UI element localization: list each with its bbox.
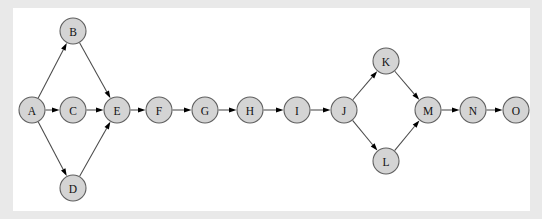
arrowhead-icon — [61, 168, 67, 176]
node-circle[interactable] — [503, 97, 529, 123]
edge-k-to-m — [395, 71, 419, 100]
arrowhead-icon — [138, 108, 146, 113]
node-circle[interactable] — [460, 97, 486, 123]
graph-node-k[interactable]: K — [373, 48, 399, 74]
edge-j-to-l — [353, 120, 378, 150]
edge-e-to-f — [131, 108, 146, 113]
edge-h-to-i — [264, 108, 284, 113]
edge-i-to-j — [311, 108, 331, 113]
arrowhead-icon — [495, 108, 503, 113]
node-circle[interactable] — [415, 97, 441, 123]
arrowhead-icon — [96, 108, 104, 113]
edge-b-to-e — [80, 43, 111, 98]
arrowhead-icon — [61, 43, 67, 51]
arrowhead-icon — [105, 90, 111, 98]
arrowhead-icon — [184, 108, 192, 113]
edge-f-to-g — [173, 108, 192, 113]
node-circle[interactable] — [60, 18, 86, 44]
edge-m-to-n — [442, 108, 460, 113]
edge-d-to-e — [80, 122, 111, 176]
edge-g-to-h — [219, 108, 237, 113]
graph-node-m[interactable]: M — [415, 97, 441, 123]
node-circle[interactable] — [60, 175, 86, 201]
graph-node-a[interactable]: A — [19, 97, 45, 123]
graph-panel: ABCDEFGHIJKLMNO — [13, 8, 530, 211]
arrowhead-icon — [276, 108, 284, 113]
graph-node-h[interactable]: H — [237, 97, 263, 123]
edge-a-to-b — [38, 43, 67, 98]
edge-l-to-m — [395, 120, 420, 150]
node-circle[interactable] — [19, 97, 45, 123]
graph-node-g[interactable]: G — [192, 97, 218, 123]
graph-node-l[interactable]: L — [373, 148, 399, 174]
edge-a-to-d — [38, 122, 66, 176]
node-circle[interactable] — [146, 97, 172, 123]
arrowhead-icon — [105, 122, 111, 130]
graph-node-f[interactable]: F — [146, 97, 172, 123]
node-circle[interactable] — [373, 148, 399, 174]
graph-canvas: ABCDEFGHIJKLMNO — [13, 8, 530, 211]
node-circle[interactable] — [284, 97, 310, 123]
arrowhead-icon — [452, 108, 460, 113]
node-circle[interactable] — [60, 97, 86, 123]
node-circle[interactable] — [331, 97, 357, 123]
node-circle[interactable] — [192, 97, 218, 123]
arrowhead-icon — [229, 108, 237, 113]
arrowhead-icon — [52, 108, 60, 113]
graph-node-n[interactable]: N — [460, 97, 486, 123]
node-circle[interactable] — [373, 48, 399, 74]
graph-node-e[interactable]: E — [104, 97, 130, 123]
graph-node-i[interactable]: I — [284, 97, 310, 123]
arrowhead-icon — [323, 108, 331, 113]
node-circle[interactable] — [104, 97, 130, 123]
edge-c-to-e — [87, 108, 104, 113]
node-circle[interactable] — [237, 97, 263, 123]
edge-j-to-k — [353, 71, 377, 100]
graph-node-d[interactable]: D — [60, 175, 86, 201]
edge-n-to-o — [487, 108, 503, 113]
edge-a-to-c — [46, 108, 60, 113]
graph-node-b[interactable]: B — [60, 18, 86, 44]
graph-node-o[interactable]: O — [503, 97, 529, 123]
graph-node-c[interactable]: C — [60, 97, 86, 123]
graph-node-j[interactable]: J — [331, 97, 357, 123]
